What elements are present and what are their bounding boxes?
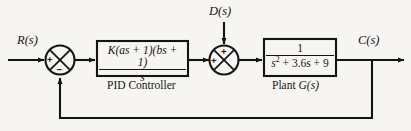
output-signal-label: C(s)	[358, 34, 380, 47]
plant-caption: Plant G(s)	[272, 80, 319, 92]
pid-numerator: K(as + 1)(bs + 1)	[99, 44, 186, 70]
pid-transfer-function: K(as + 1)(bs + 1) s	[99, 44, 186, 83]
plant-numerator: 1	[266, 42, 334, 56]
pid-controller-caption: PID Controller	[107, 80, 176, 92]
plant-caption-prefix: Plant	[272, 79, 299, 91]
reference-signal-label: R(s)	[17, 34, 38, 47]
plant-denominator: s2 + 3.6s + 9	[266, 56, 334, 69]
disturbance-junction-top-plus-sign: +	[221, 47, 227, 57]
plant-caption-transfer: G(s)	[299, 79, 319, 91]
error-junction-plus-sign: +	[47, 55, 53, 65]
disturbance-signal-label: D(s)	[209, 5, 231, 18]
control-block-diagram: R(s) D(s) C(s) + − + + K(as + 1)(bs + 1)…	[0, 0, 411, 131]
disturbance-junction-left-plus-sign: +	[211, 56, 217, 66]
plant-denominator-rest: + 3.6s + 9	[280, 57, 329, 69]
plant-transfer-function: 1 s2 + 3.6s + 9	[266, 42, 334, 69]
error-junction-minus-sign: −	[57, 65, 63, 75]
